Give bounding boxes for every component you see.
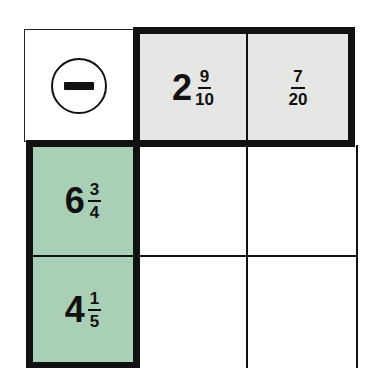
grid-line	[246, 30, 248, 368]
grid-line	[33, 255, 358, 257]
fraction: 1 5	[88, 290, 101, 330]
fraction: 9 10	[195, 68, 214, 108]
grid-line	[26, 140, 355, 147]
whole-number: 6	[65, 183, 85, 219]
fraction: 3 4	[88, 181, 101, 221]
minus-circle-icon	[51, 58, 107, 114]
answer-cell-r2c2[interactable]	[248, 258, 356, 368]
answer-cell-r1c2[interactable]	[248, 148, 356, 255]
top-header-2: 7 20	[248, 33, 348, 142]
grid-line	[356, 145, 358, 368]
answer-cell-r2c1[interactable]	[140, 258, 246, 368]
grid-line	[133, 27, 355, 34]
grid-line	[133, 27, 140, 368]
operator-cell	[24, 29, 134, 142]
grid-line	[26, 362, 140, 368]
left-header-1: 6 3 4	[32, 146, 134, 256]
answer-cell-r1c1[interactable]	[140, 148, 246, 255]
fraction: 7 20	[289, 68, 308, 108]
top-header-1: 2 9 10	[138, 33, 248, 142]
whole-number: 4	[65, 292, 85, 328]
whole-number: 2	[172, 70, 192, 106]
left-header-2: 4 1 5	[32, 257, 134, 363]
grid-line	[348, 27, 355, 147]
grid-line	[26, 140, 33, 368]
